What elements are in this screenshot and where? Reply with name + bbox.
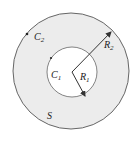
orientation-dot-c1: [50, 57, 52, 59]
label-region-s: S: [47, 110, 52, 121]
orientation-dot-c2: [26, 33, 29, 36]
annulus-diagram: C2 C1 R2 R1 S: [0, 0, 139, 141]
